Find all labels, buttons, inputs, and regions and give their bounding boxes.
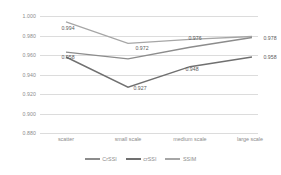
legend-item-crssi-lower[interactable]: crSSI <box>126 156 157 162</box>
y-tick-label: 0.920 <box>2 91 36 97</box>
gridline <box>40 133 258 134</box>
chart-legend: CrSSI crSSI SSIM <box>0 152 281 166</box>
y-tick-label: 0.880 <box>2 130 36 136</box>
x-tick-label-large-scale: large scale <box>237 136 263 142</box>
legend-swatch-icon <box>126 158 141 160</box>
y-tick-label: 0.940 <box>2 72 36 78</box>
x-tick-label-scatter: scatter <box>58 136 74 142</box>
legend-swatch-icon <box>85 158 100 160</box>
x-tick-label-small-scale: small scale <box>115 136 142 142</box>
line-chart: 0.994 0.972 0.976 0.978 0.958 0.927 0.94… <box>0 0 281 175</box>
y-tick-label: 0.900 <box>2 111 36 117</box>
x-axis: scatter small scale medium scale large s… <box>40 136 258 148</box>
y-tick-label: 0.980 <box>2 33 36 39</box>
y-tick-label: 1.000 <box>2 13 36 19</box>
legend-label: crSSI <box>143 156 156 162</box>
legend-label: SSIM <box>183 156 196 162</box>
y-axis: 1.000 0.980 0.960 0.940 0.920 0.900 0.88… <box>0 16 281 133</box>
x-tick-label-medium-scale: medium scale <box>173 136 206 142</box>
legend-swatch-icon <box>165 158 180 160</box>
legend-item-crssi-upper[interactable]: CrSSI <box>85 156 117 162</box>
legend-label: CrSSI <box>102 156 116 162</box>
legend-item-ssim[interactable]: SSIM <box>165 156 196 162</box>
y-tick-label: 0.960 <box>2 52 36 58</box>
